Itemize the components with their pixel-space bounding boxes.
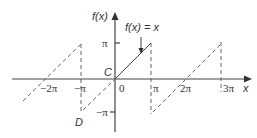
y-axis-arrow-icon — [112, 12, 119, 20]
dashed-segment-right — [153, 44, 221, 112]
function-segment — [115, 43, 151, 79]
y-axis-label: f(x) — [92, 10, 108, 22]
y-tick-label-neg-pi: −π — [96, 106, 108, 118]
point-c-label: C — [104, 66, 112, 78]
function-label: f(x) = x — [125, 21, 159, 33]
x-tick-3pi: 3π — [223, 82, 235, 94]
x-tick-pi: π — [153, 82, 159, 94]
x-tick-2pi: 2π — [180, 82, 192, 94]
x-axis-label: x — [242, 82, 249, 94]
x-tick-neg-2pi: −2π — [40, 82, 58, 94]
plot-canvas: f(x) f(x) = x x C D 0 −2π −π π 2π 3π π −… — [0, 0, 257, 138]
x-tick-neg-pi: −π — [74, 82, 86, 94]
sawtooth-diagram: f(x) f(x) = x x C D 0 −2π −π π 2π 3π π −… — [0, 0, 257, 138]
origin-label: 0 — [119, 82, 125, 94]
point-d-label: D — [75, 116, 83, 128]
y-tick-label-pi: π — [102, 37, 108, 49]
